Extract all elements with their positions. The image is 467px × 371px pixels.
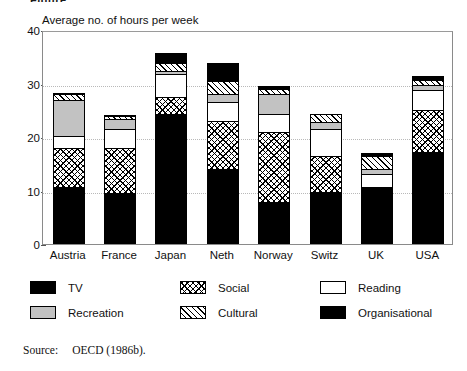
bar-segment-cultural[interactable] (207, 81, 239, 94)
x-tick-label-usa: USA (415, 249, 439, 261)
x-tick-label-neth: Neth (210, 249, 234, 261)
y-tick-label: 20 (14, 132, 40, 144)
chart-legend: TVRecreationSocialCulturalReadingOrganis… (30, 281, 450, 327)
bar-segment-social[interactable] (53, 148, 85, 187)
bar-segment-organisational[interactable] (258, 86, 290, 89)
y-tick-label: 0 (14, 239, 40, 251)
x-tick-label-austria: Austria (50, 249, 86, 261)
bar-segment-organisational[interactable] (155, 53, 187, 63)
figure-container: Figure Average no. of hours per week 010… (0, 0, 467, 371)
legend-label: Recreation (68, 307, 124, 319)
legend-item-social[interactable]: Social (180, 281, 249, 294)
bar-segment-reading[interactable] (104, 129, 136, 148)
bar-segment-social[interactable] (155, 97, 187, 114)
bar-segment-recreation[interactable] (155, 71, 187, 74)
legend-label: Cultural (218, 307, 258, 319)
legend-label: Social (218, 282, 249, 294)
y-axis: 010203040 (10, 31, 40, 245)
legend-label: Organisational (358, 307, 432, 319)
bar-segment-tv[interactable] (207, 169, 239, 244)
legend-label: Reading (358, 282, 401, 294)
bar-norway[interactable] (258, 30, 290, 244)
legend-label: TV (68, 282, 83, 294)
legend-item-cultural[interactable]: Cultural (180, 306, 258, 319)
bar-segment-reading[interactable] (310, 129, 342, 156)
bar-segment-recreation[interactable] (207, 94, 239, 102)
x-tick-label-france: France (101, 249, 137, 261)
bar-segment-reading[interactable] (258, 114, 290, 132)
y-axis-title: Average no. of hours per week (42, 14, 198, 26)
bar-switz[interactable] (310, 30, 342, 244)
legend-item-organisational[interactable]: Organisational (320, 306, 432, 319)
bar-segment-reading[interactable] (53, 136, 85, 147)
bar-segment-tv[interactable] (53, 187, 85, 244)
bar-neth[interactable] (207, 30, 239, 244)
bar-austria[interactable] (53, 30, 85, 244)
bar-segment-tv[interactable] (258, 202, 290, 244)
x-tick-label-japan: Japan (155, 249, 186, 261)
bar-segment-social[interactable] (412, 110, 444, 152)
bar-segment-social[interactable] (104, 148, 136, 192)
bar-segment-cultural[interactable] (258, 89, 290, 94)
bar-segment-organisational[interactable] (207, 63, 239, 81)
bar-segment-social[interactable] (310, 156, 342, 192)
y-tick-label: 30 (14, 79, 40, 91)
gray-swatch (30, 306, 56, 319)
plot-area (42, 31, 453, 245)
clipped-figure-caption: Figure (30, 0, 67, 2)
bar-segment-reading[interactable] (207, 102, 239, 121)
x-tick-label-norway: Norway (254, 249, 293, 261)
bar-segment-recreation[interactable] (361, 169, 393, 174)
bar-japan[interactable] (155, 30, 187, 244)
legend-item-recreation[interactable]: Recreation (30, 306, 124, 319)
bar-segment-organisational[interactable] (412, 76, 444, 80)
bar-france[interactable] (104, 30, 136, 244)
bar-segment-reading[interactable] (361, 174, 393, 187)
bar-segment-recreation[interactable] (310, 122, 342, 129)
bar-segment-tv[interactable] (412, 152, 444, 244)
source-citation: OECD (1986b). (72, 344, 145, 356)
bar-segment-organisational[interactable] (53, 93, 85, 95)
source-note: Source:OECD (1986b). (23, 344, 146, 356)
bar-segment-social[interactable] (258, 132, 290, 203)
bar-segment-recreation[interactable] (412, 85, 444, 91)
bar-segment-recreation[interactable] (258, 94, 290, 114)
bar-segment-cultural[interactable] (361, 156, 393, 169)
bar-segment-cultural[interactable] (155, 63, 187, 71)
bar-segment-tv[interactable] (104, 193, 136, 244)
y-tick-label: 40 (14, 25, 40, 37)
bar-segment-tv[interactable] (361, 187, 393, 244)
source-label: Source: (23, 344, 58, 356)
legend-item-reading[interactable]: Reading (320, 281, 401, 294)
bar-usa[interactable] (412, 30, 444, 244)
bar-segment-organisational[interactable] (104, 115, 136, 117)
bar-segment-cultural[interactable] (412, 80, 444, 85)
solid-black-swatch (30, 281, 56, 294)
bar-segment-tv[interactable] (310, 192, 342, 244)
bar-segment-cultural[interactable] (53, 94, 85, 99)
bar-segment-reading[interactable] (155, 74, 187, 97)
crosshatch-swatch (180, 281, 206, 294)
y-tick-mark (41, 245, 46, 246)
solid-black-swatch (320, 306, 346, 319)
bar-segment-tv[interactable] (155, 114, 187, 244)
diagonal-hatch-swatch (180, 306, 206, 319)
legend-item-tv[interactable]: TV (30, 281, 83, 294)
bar-segment-reading[interactable] (412, 90, 444, 110)
y-tick-label: 10 (14, 186, 40, 198)
white-swatch (320, 281, 346, 294)
bar-segment-recreation[interactable] (104, 119, 136, 129)
bar-uk[interactable] (361, 30, 393, 244)
bar-segment-recreation[interactable] (53, 100, 85, 137)
bar-segment-social[interactable] (207, 121, 239, 169)
x-tick-label-switz: Switz (311, 249, 338, 261)
bar-segment-organisational[interactable] (361, 153, 393, 156)
bar-segment-cultural[interactable] (104, 116, 136, 119)
bar-segment-cultural[interactable] (310, 114, 342, 122)
x-tick-label-uk: UK (368, 249, 384, 261)
